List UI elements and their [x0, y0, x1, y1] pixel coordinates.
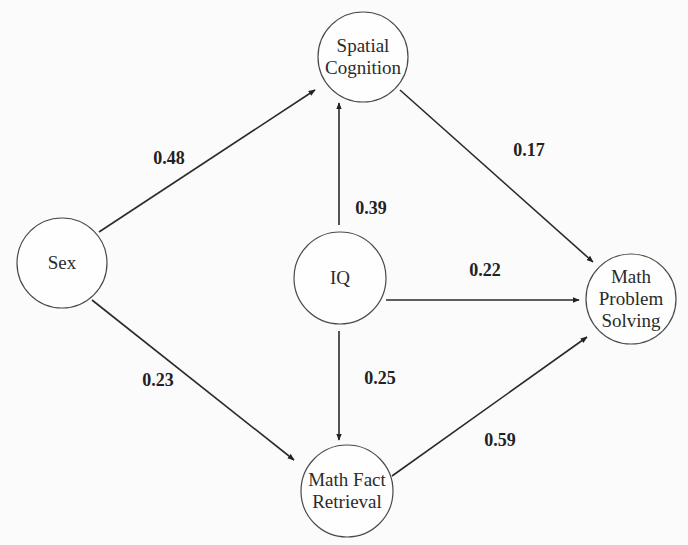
path-diagram: SexSpatialCognitionIQMath FactRetrievalM… — [0, 0, 688, 545]
node-spatial-label: Cognition — [325, 57, 402, 78]
edge-sex-to-spatial-arrow — [99, 90, 315, 232]
coefficient-iq-to-mps: 0.22 — [469, 260, 501, 280]
node-spatial-label: Spatial — [337, 35, 390, 56]
node-mps-label: Problem — [599, 288, 664, 309]
node-mfr-label: Math Fact — [308, 469, 386, 490]
edge-mfr-to-mps-arrow — [392, 337, 587, 476]
edge-spatial-to-mps-arrow — [400, 90, 593, 262]
nodes-group: SexSpatialCognitionIQMath FactRetrievalM… — [17, 12, 676, 537]
node-mps: MathProblemSolving — [586, 254, 676, 344]
node-iq-label: IQ — [330, 267, 350, 288]
node-mfr-label: Retrieval — [312, 491, 382, 512]
node-spatial: SpatialCognition — [318, 12, 408, 102]
coefficient-iq-to-mfr: 0.25 — [364, 368, 396, 388]
node-iq: IQ — [294, 232, 386, 324]
node-sex-label: Sex — [48, 252, 77, 273]
node-sex: Sex — [17, 218, 107, 308]
coefficient-sex-to-mfr: 0.23 — [142, 370, 174, 390]
edge-sex-to-mfr-arrow — [92, 300, 294, 460]
coefficient-spatial-to-mps: 0.17 — [513, 140, 545, 160]
node-mps-label: Math — [611, 266, 652, 287]
coefficient-sex-to-spatial: 0.48 — [153, 148, 185, 168]
node-mps-label: Solving — [601, 310, 661, 331]
coefficient-mfr-to-mps: 0.59 — [484, 430, 516, 450]
node-mfr: Math FactRetrieval — [301, 445, 393, 537]
coefficient-iq-to-spatial: 0.39 — [355, 198, 387, 218]
